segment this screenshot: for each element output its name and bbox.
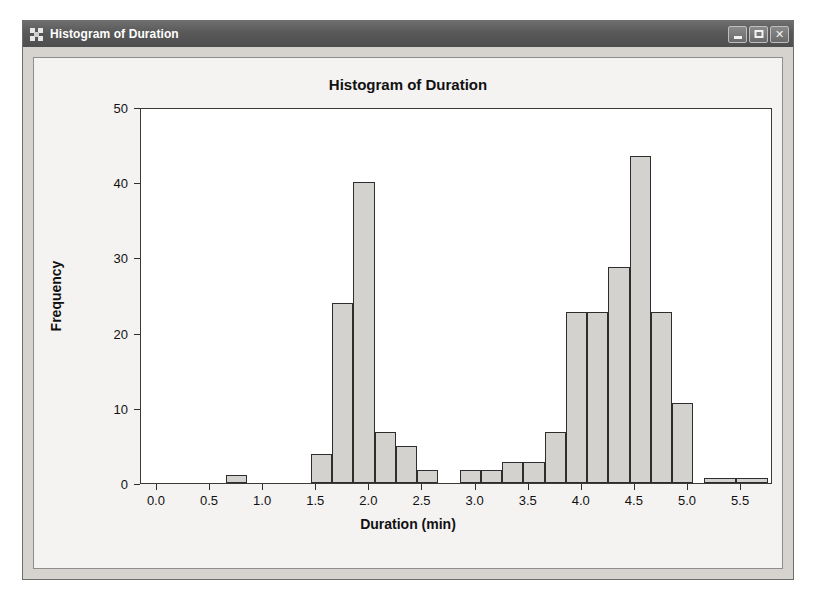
screen: Histogram of Duration ✕ Histogram of Dur… xyxy=(0,0,817,609)
app-window: Histogram of Duration ✕ Histogram of Dur… xyxy=(22,20,794,580)
x-tick-mark xyxy=(209,484,210,490)
histogram-bar xyxy=(672,403,693,483)
histogram-bar xyxy=(736,478,768,483)
x-tick-mark xyxy=(634,484,635,490)
x-tick-mark xyxy=(528,484,529,490)
histogram-bar xyxy=(353,182,374,483)
x-tick-mark xyxy=(156,484,157,490)
x-tick-label: 1.5 xyxy=(306,493,324,508)
x-tick-mark xyxy=(687,484,688,490)
y-tick-mark xyxy=(134,484,140,485)
minimize-button[interactable] xyxy=(728,26,747,43)
histogram-bar xyxy=(502,462,523,483)
x-tick-mark xyxy=(475,484,476,490)
x-tick-mark xyxy=(740,484,741,490)
histogram-bar xyxy=(396,446,417,483)
x-tick-mark xyxy=(368,484,369,490)
y-tick-label: 20 xyxy=(102,326,128,341)
x-tick-label: 2.0 xyxy=(359,493,377,508)
histogram-bar xyxy=(460,470,481,483)
histogram-bar xyxy=(566,312,587,483)
histogram-bar xyxy=(311,454,332,483)
histogram-bar xyxy=(481,470,502,483)
x-tick-label: 0.0 xyxy=(147,493,165,508)
x-tick-mark xyxy=(315,484,316,490)
histogram-bar xyxy=(704,478,736,483)
histogram-bar xyxy=(545,432,566,483)
x-axis-label: Duration (min) xyxy=(34,516,782,532)
y-tick-label: 40 xyxy=(102,176,128,191)
histogram-bar xyxy=(417,470,438,483)
x-tick-label: 3.5 xyxy=(519,493,537,508)
histogram-bar xyxy=(226,475,247,483)
histogram-bar xyxy=(651,312,672,483)
chart-title: Histogram of Duration xyxy=(34,76,782,93)
x-tick-mark xyxy=(262,484,263,490)
histogram-bar xyxy=(630,156,651,483)
chart-canvas: Histogram of Duration Frequency 01020304… xyxy=(33,57,783,569)
x-tick-label: 4.5 xyxy=(625,493,643,508)
x-tick-label: 5.5 xyxy=(731,493,749,508)
close-button[interactable]: ✕ xyxy=(770,26,789,43)
histogram-bar xyxy=(375,432,396,483)
x-tick-label: 3.0 xyxy=(466,493,484,508)
x-tick-mark xyxy=(581,484,582,490)
y-tick-label: 10 xyxy=(102,401,128,416)
y-tick-label: 30 xyxy=(102,251,128,266)
x-tick-label: 1.0 xyxy=(253,493,271,508)
y-tick-label: 50 xyxy=(102,101,128,116)
histogram-bars xyxy=(141,109,771,483)
window-title: Histogram of Duration xyxy=(50,27,728,41)
histogram-bar xyxy=(608,267,629,483)
plot-area xyxy=(140,108,772,484)
histogram-bar xyxy=(587,312,608,483)
histogram-bar xyxy=(332,303,353,483)
x-tick-label: 5.0 xyxy=(678,493,696,508)
histogram-bar xyxy=(523,462,544,483)
x-tick-label: 2.5 xyxy=(412,493,430,508)
x-tick-label: 4.0 xyxy=(572,493,590,508)
y-axis-label: Frequency xyxy=(48,261,64,332)
maximize-button[interactable] xyxy=(749,26,768,43)
app-grid-icon xyxy=(30,28,43,41)
y-tick-label: 0 xyxy=(102,477,128,492)
window-titlebar[interactable]: Histogram of Duration ✕ xyxy=(23,21,793,47)
x-tick-mark xyxy=(421,484,422,490)
x-tick-label: 0.5 xyxy=(200,493,218,508)
window-controls: ✕ xyxy=(728,26,789,43)
